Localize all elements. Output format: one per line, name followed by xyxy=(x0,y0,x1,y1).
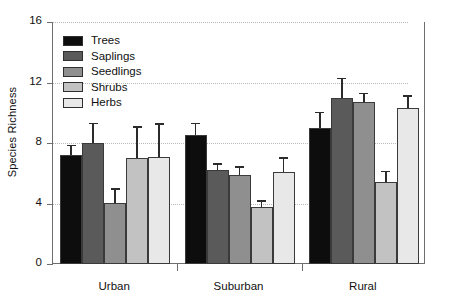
bar xyxy=(309,128,331,264)
bar xyxy=(331,98,353,264)
y-axis-tick-label: 16 xyxy=(8,14,42,26)
error-bar-cap xyxy=(111,188,120,189)
y-axis-tick-label: 0 xyxy=(8,256,42,268)
error-bar xyxy=(92,123,93,143)
y-axis-tick xyxy=(47,204,53,205)
bar-chart: Species Richness 0481216 UrbanSuburbanRu… xyxy=(0,0,454,304)
bar xyxy=(251,207,273,264)
error-bar-cap xyxy=(337,78,346,79)
legend-swatch xyxy=(63,51,83,61)
bar xyxy=(60,155,82,264)
error-bar xyxy=(283,157,284,171)
legend-item: Saplings xyxy=(63,49,142,65)
legend-item: Shrubs xyxy=(63,80,142,96)
y-axis-tick-label: 8 xyxy=(8,135,42,147)
error-bar-cap xyxy=(235,166,244,167)
legend-item: Seedlings xyxy=(63,64,142,80)
error-bar-cap xyxy=(155,123,164,124)
legend-swatch xyxy=(63,67,83,77)
x-axis-group-label: Urban xyxy=(98,280,129,292)
legend-label: Herbs xyxy=(91,97,122,109)
y-axis-tick xyxy=(47,22,53,23)
error-bar-cap xyxy=(381,171,390,172)
legend-label: Saplings xyxy=(91,51,135,63)
error-bar-cap xyxy=(133,126,142,127)
error-bar-cap xyxy=(279,157,288,158)
legend-label: Trees xyxy=(91,35,120,47)
bar xyxy=(273,172,295,264)
x-axis-group-tick xyxy=(177,264,178,271)
error-bar-cap xyxy=(191,123,200,124)
y-axis-tick xyxy=(47,83,53,84)
legend-swatch xyxy=(63,36,83,46)
legend-label: Seedlings xyxy=(91,66,142,78)
gridline xyxy=(53,22,408,23)
y-axis-tick-label: 12 xyxy=(8,75,42,87)
bar xyxy=(353,102,375,264)
bar xyxy=(148,157,170,264)
error-bar-cap xyxy=(67,145,76,146)
error-bar xyxy=(385,171,386,182)
bar xyxy=(207,170,229,264)
error-bar xyxy=(341,78,342,98)
legend-item: Herbs xyxy=(63,95,142,111)
bar xyxy=(104,203,126,264)
x-axis-group-label: Suburban xyxy=(214,280,264,292)
error-bar xyxy=(195,123,196,136)
error-bar xyxy=(114,188,115,202)
bar xyxy=(229,175,251,264)
bar xyxy=(126,158,148,264)
error-bar xyxy=(319,112,320,128)
bar xyxy=(375,182,397,264)
x-axis-group-label: Rural xyxy=(349,280,376,292)
y-axis-tick xyxy=(47,143,53,144)
legend-swatch xyxy=(63,98,83,108)
error-bar xyxy=(158,123,159,156)
bar xyxy=(185,135,207,264)
error-bar xyxy=(70,145,71,156)
bar xyxy=(397,108,419,264)
legend: TreesSaplingsSeedlingsShrubsHerbs xyxy=(63,33,142,111)
error-bar-cap xyxy=(403,95,412,96)
legend-item: Trees xyxy=(63,33,142,49)
y-axis-tick xyxy=(47,264,53,265)
bar xyxy=(82,143,104,264)
y-axis-tick-label: 4 xyxy=(8,196,42,208)
error-bar-cap xyxy=(213,163,222,164)
error-bar-cap xyxy=(315,112,324,113)
error-bar xyxy=(136,126,137,158)
error-bar-cap xyxy=(257,200,266,201)
y-axis-title: Species Richness xyxy=(1,0,23,264)
legend-label: Shrubs xyxy=(91,82,127,94)
error-bar-cap xyxy=(359,93,368,94)
error-bar xyxy=(407,95,408,108)
legend-swatch xyxy=(63,82,83,92)
x-axis-group-tick xyxy=(302,264,303,271)
error-bar-cap xyxy=(89,123,98,124)
